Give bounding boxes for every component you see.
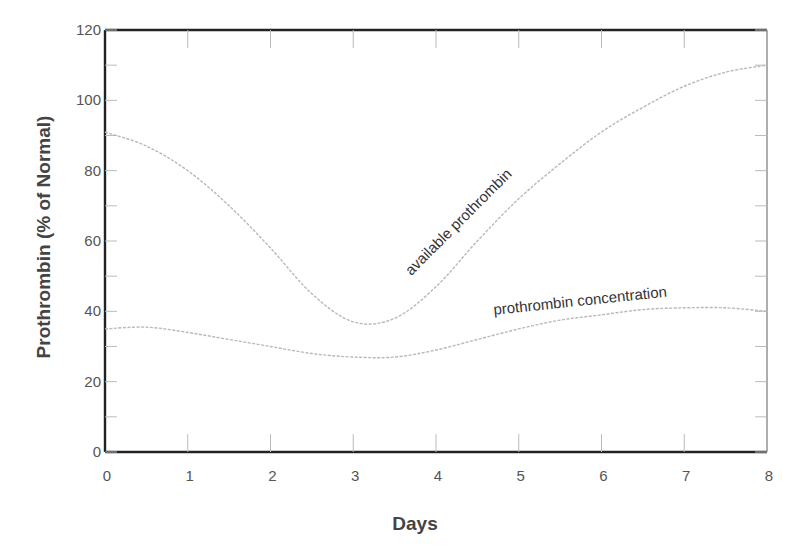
x-tick-label: 3 [351,467,359,484]
x-tick-label: 0 [103,467,111,484]
x-tick-label: 2 [268,467,276,484]
y-tick-label: 60 [84,232,101,249]
prothrombin-chart: 020406080100120 012345678 available prot… [0,0,791,555]
annotation-prothrombin-concentration: prothrombin concentration [492,283,667,318]
y-tick-label: 100 [76,91,101,108]
x-axis-ticks: 012345678 [103,30,773,484]
y-tick-label: 20 [84,373,101,390]
prothrombin-concentration-curve [105,307,767,357]
x-tick-label: 6 [599,467,607,484]
x-tick-label: 4 [434,467,442,484]
y-axis-title: Prothrombin (% of Normal) [33,116,54,359]
y-tick-label: 120 [76,21,101,38]
x-tick-label: 8 [765,467,773,484]
x-tick-label: 5 [517,467,525,484]
y-tick-label: 0 [93,443,101,460]
annotation-available-prothrombin: available prothrombin [401,165,514,278]
available-prothrombin-curve [105,65,767,324]
x-axis-title: Days [392,513,437,534]
curves [105,65,767,358]
x-tick-label: 7 [682,467,690,484]
y-tick-label: 40 [84,302,101,319]
y-axis-ticks: 020406080100120 [76,21,767,460]
y-tick-label: 80 [84,162,101,179]
x-tick-label: 1 [186,467,194,484]
